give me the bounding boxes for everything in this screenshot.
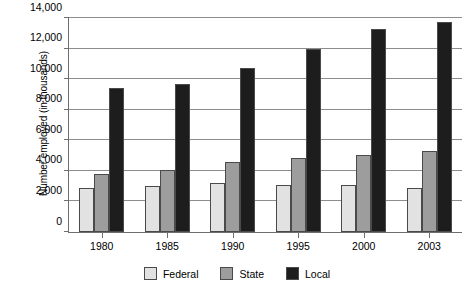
y-tick-mark	[64, 231, 69, 232]
bar-group	[407, 18, 452, 232]
legend-label: Local	[305, 268, 330, 280]
gridline	[69, 170, 462, 171]
gridline	[69, 200, 462, 201]
legend-label: Federal	[163, 268, 199, 280]
y-tick-label: 6,000	[36, 123, 62, 135]
gridline	[69, 139, 462, 140]
y-tick-mark	[64, 139, 69, 140]
x-tick-mark	[364, 232, 365, 238]
bar-group	[79, 18, 124, 232]
bar-federal-2003	[407, 188, 422, 232]
bar-local-2000	[371, 29, 386, 232]
legend-item-state: State	[220, 267, 264, 280]
y-tick-label: 8,000	[36, 92, 62, 104]
bar-state-1995	[291, 158, 306, 232]
bar-federal-1995	[276, 185, 291, 232]
bar-local-1980	[109, 88, 124, 232]
legend-swatch-icon	[144, 267, 157, 280]
plot-area: 02,0004,0006,0008,00010,00012,00014,000 …	[68, 18, 462, 233]
legend-swatch-icon	[220, 267, 233, 280]
legend-swatch-icon	[286, 267, 299, 280]
y-tick-mark	[64, 170, 69, 171]
y-tick-label: 12,000	[30, 31, 62, 43]
bar-chart: Number employed (in thousands) 02,0004,0…	[0, 0, 474, 296]
legend-label: State	[239, 268, 264, 280]
y-tick-mark	[64, 109, 69, 110]
x-tick-label: 2003	[418, 240, 441, 252]
y-tick-label: 0	[56, 215, 62, 227]
gridline	[69, 109, 462, 110]
legend: FederalStateLocal	[0, 267, 474, 280]
x-tick-mark	[102, 232, 103, 238]
y-tick-label: 14,000	[30, 1, 62, 13]
bar-local-1985	[175, 84, 190, 232]
gridline	[69, 78, 462, 79]
x-tick-mark	[429, 232, 430, 238]
x-tick-label: 1990	[221, 240, 244, 252]
bar-federal-1985	[145, 186, 160, 232]
bar-group	[145, 18, 190, 232]
x-tick-label: 1995	[287, 240, 310, 252]
bar-state-2000	[356, 155, 371, 232]
bar-local-2003	[437, 22, 452, 232]
bar-group	[341, 18, 386, 232]
y-tick-label: 10,000	[30, 62, 62, 74]
x-tick-mark	[167, 232, 168, 238]
gridline	[69, 48, 462, 49]
x-tick-label: 1985	[156, 240, 179, 252]
bar-local-1995	[306, 49, 321, 232]
y-tick-mark	[64, 200, 69, 201]
bar-state-2003	[422, 151, 437, 232]
x-tick-mark	[298, 232, 299, 238]
y-tick-mark	[64, 48, 69, 49]
bar-state-1990	[225, 162, 240, 232]
bar-group	[210, 18, 255, 232]
bar-state-1980	[94, 174, 109, 232]
bar-federal-1990	[210, 183, 225, 232]
gridline	[69, 17, 462, 18]
y-tick-mark	[64, 17, 69, 18]
bar-federal-2000	[341, 185, 356, 232]
bar-state-1985	[160, 170, 175, 232]
bar-federal-1980	[79, 188, 94, 232]
x-tick-mark	[233, 232, 234, 238]
bar-local-1990	[240, 68, 255, 232]
legend-item-federal: Federal	[144, 267, 199, 280]
legend-item-local: Local	[286, 267, 330, 280]
x-tick-label: 2000	[352, 240, 375, 252]
y-tick-label: 2,000	[36, 184, 62, 196]
y-tick-label: 4,000	[36, 153, 62, 165]
y-tick-mark	[64, 78, 69, 79]
bar-group	[276, 18, 321, 232]
x-tick-label: 1980	[90, 240, 113, 252]
